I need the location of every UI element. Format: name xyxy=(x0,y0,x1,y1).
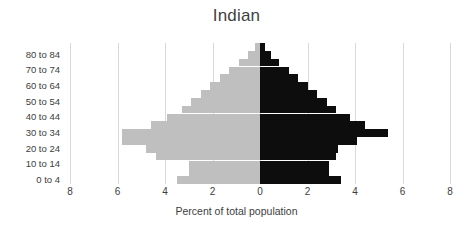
bar-left xyxy=(146,145,260,153)
y-axis-label: 60 to 64 xyxy=(26,81,60,91)
bar-left xyxy=(229,67,260,75)
bar-left xyxy=(201,90,260,98)
bar-row xyxy=(70,114,450,122)
bar-right xyxy=(260,137,357,145)
y-axis-label: 40 to 44 xyxy=(26,112,60,122)
bar-right xyxy=(260,43,265,51)
bar-right xyxy=(260,161,329,169)
bar-row xyxy=(70,168,450,176)
bar-right xyxy=(260,153,336,161)
y-axis-label: 30 to 34 xyxy=(26,128,60,138)
bar-row xyxy=(70,145,450,153)
x-axis-tick: 4 xyxy=(352,186,358,197)
bar-right xyxy=(260,67,289,75)
x-axis-tick: 8 xyxy=(67,186,73,197)
y-axis-label: 50 to 54 xyxy=(26,97,60,107)
bar-left xyxy=(167,114,260,122)
bar-row xyxy=(70,176,450,184)
x-axis-tick: 8 xyxy=(447,186,453,197)
bar-left xyxy=(151,121,260,129)
bar-right xyxy=(260,90,317,98)
bar-rows xyxy=(70,43,450,184)
bar-left xyxy=(122,137,260,145)
x-axis-title: Percent of total population xyxy=(0,205,473,217)
bar-row xyxy=(70,59,450,67)
x-axis-tick: 6 xyxy=(400,186,406,197)
bar-row xyxy=(70,82,450,90)
bar-left xyxy=(122,129,260,137)
bar-right xyxy=(260,176,341,184)
chart-title: Indian xyxy=(0,6,473,26)
bar-left xyxy=(248,51,260,59)
bar-row xyxy=(70,67,450,75)
bar-left xyxy=(177,176,260,184)
y-axis-label: 0 to 4 xyxy=(36,175,60,185)
bar-right xyxy=(260,114,350,122)
y-axis-label: 20 to 24 xyxy=(26,144,60,154)
bar-right xyxy=(260,106,336,114)
y-axis-label: 80 to 84 xyxy=(26,50,60,60)
bar-right xyxy=(260,121,365,129)
y-axis-label: 10 to 14 xyxy=(26,159,60,169)
bar-row xyxy=(70,161,450,169)
bar-right xyxy=(260,82,308,90)
bar-row xyxy=(70,121,450,129)
bar-right xyxy=(260,145,338,153)
gridline xyxy=(450,43,451,184)
population-pyramid-chart: Indian 80 to 8470 to 7460 to 6450 to 544… xyxy=(0,0,473,241)
x-axis-tick-labels: 864202468 xyxy=(70,186,450,202)
bar-left xyxy=(182,106,260,114)
y-axis-labels: 80 to 8470 to 7460 to 6450 to 5440 to 44… xyxy=(0,43,64,184)
bar-row xyxy=(70,98,450,106)
x-axis-tick: 0 xyxy=(257,186,263,197)
bar-left xyxy=(191,98,260,106)
bar-right xyxy=(260,74,298,82)
bar-row xyxy=(70,129,450,137)
bar-left xyxy=(210,82,260,90)
bar-left xyxy=(239,59,260,67)
bar-left xyxy=(156,153,261,161)
bar-left xyxy=(189,161,260,169)
x-axis-tick: 4 xyxy=(162,186,168,197)
bar-row xyxy=(70,90,450,98)
bar-row xyxy=(70,106,450,114)
y-axis-label: 70 to 74 xyxy=(26,65,60,75)
bar-row xyxy=(70,137,450,145)
bar-right xyxy=(260,168,329,176)
x-axis-tick: 2 xyxy=(305,186,311,197)
bar-left xyxy=(189,168,260,176)
bar-row xyxy=(70,74,450,82)
bar-right xyxy=(260,51,271,59)
bar-left xyxy=(220,74,260,82)
x-axis-tick: 6 xyxy=(115,186,121,197)
bar-row xyxy=(70,153,450,161)
bar-row xyxy=(70,43,450,51)
bar-right xyxy=(260,129,388,137)
bar-right xyxy=(260,98,327,106)
bar-right xyxy=(260,59,279,67)
x-axis-tick: 2 xyxy=(210,186,216,197)
plot-area xyxy=(70,43,450,184)
bar-row xyxy=(70,51,450,59)
